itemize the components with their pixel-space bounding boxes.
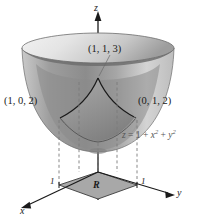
x-axis-label: x — [20, 206, 24, 216]
paraboloid-figure: z x y (1, 1, 3) (1, 0, 2) (0, 1, 2) 1 1 … — [0, 0, 197, 221]
y-tick-1: 1 — [141, 177, 146, 186]
eq-y-exponent: 2 — [172, 128, 175, 135]
point-label-1-0-2: (1, 0, 2) — [4, 96, 37, 107]
bowl-bottom-shadow — [89, 148, 107, 154]
x-tick-1: 1 — [50, 177, 55, 186]
point-label-1-1-3: (1, 1, 3) — [88, 44, 121, 55]
surface-equation-label: z = 1 + x2 + y2 — [122, 129, 176, 141]
point-label-0-1-2: (0, 1, 2) — [138, 96, 171, 107]
y-axis-label: y — [177, 188, 181, 198]
z-axis-label: z — [94, 3, 98, 13]
region-label-R: R — [93, 180, 100, 190]
eq-one: 1 — [136, 130, 141, 140]
